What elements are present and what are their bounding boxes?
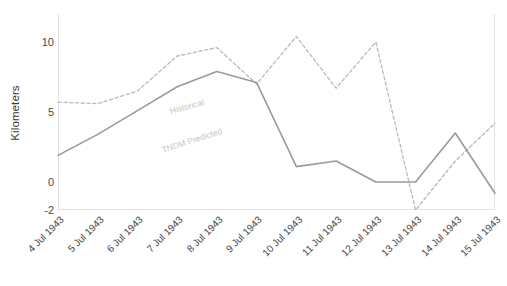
- x-axis-tick: 6 Jul 1943: [105, 214, 145, 254]
- x-axis-tick: 11 Jul 1943: [300, 214, 344, 258]
- line-chart: Kilometers 1050-2 Historical TNDM Predic…: [0, 0, 507, 286]
- plot-area: Historical TNDM Predicted: [58, 14, 495, 210]
- y-axis-label: Kilometers: [9, 85, 21, 140]
- x-axis-tick: 5 Jul 1943: [65, 214, 105, 254]
- x-axis-tick: 7 Jul 1943: [145, 214, 185, 254]
- x-axis-tick: 9 Jul 1943: [224, 214, 264, 254]
- x-axis-tick: 14 Jul 1943: [419, 214, 463, 258]
- y-axis-tick: 0: [30, 176, 54, 188]
- x-axis-tick: 15 Jul 1943: [458, 214, 502, 258]
- x-axis-tick: 12 Jul 1943: [339, 214, 383, 258]
- y-axis-tick: 10: [30, 36, 54, 48]
- x-axis-tick-row: 4 Jul 19435 Jul 19436 Jul 19437 Jul 1943…: [58, 212, 495, 286]
- series-svg: [58, 14, 495, 210]
- y-axis-tick: 5: [30, 106, 54, 118]
- x-axis-tick: 10 Jul 1943: [260, 214, 304, 258]
- series-line-tndm: [58, 71, 495, 193]
- y-axis-tick: -2: [30, 204, 54, 216]
- y-axis-label-container: Kilometers: [2, 0, 28, 225]
- x-axis-tick: 8 Jul 1943: [184, 214, 224, 254]
- x-axis-tick: 13 Jul 1943: [379, 214, 423, 258]
